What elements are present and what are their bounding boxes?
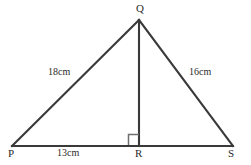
vertex-label-r: R bbox=[135, 148, 142, 159]
right-angle-marker-icon bbox=[129, 135, 140, 146]
vertex-label-s: S bbox=[228, 148, 234, 159]
geometry-diagram: P Q R S 18cm 16cm 13cm bbox=[0, 0, 251, 165]
measurement-label-pq: 18cm bbox=[48, 67, 70, 77]
measurement-label-qs: 16cm bbox=[189, 67, 211, 77]
vertex-label-p: P bbox=[8, 148, 14, 159]
triangle-figure bbox=[0, 0, 251, 165]
segment-side-PQ bbox=[12, 20, 139, 146]
measurement-label-pr: 13cm bbox=[57, 148, 79, 158]
segment-side-QS bbox=[139, 20, 233, 146]
vertex-label-q: Q bbox=[136, 3, 144, 14]
